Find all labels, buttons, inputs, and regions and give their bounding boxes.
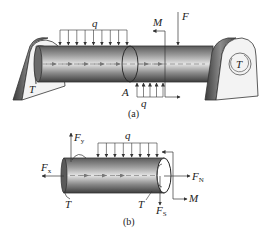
caption-b: (b) [123, 216, 135, 228]
caption-a: (a) [128, 108, 139, 120]
label-T-right-b: T [138, 198, 145, 210]
label-T-left-b: T [65, 198, 72, 210]
label-FN: FN [191, 170, 204, 184]
label-Fy: Fy [73, 131, 85, 145]
label-FS: FS [155, 204, 167, 218]
label-Fx: Fx [40, 161, 52, 175]
label-T-left: T [29, 83, 36, 95]
label-T-right: T [236, 58, 243, 70]
label-M: M [152, 16, 163, 28]
figure-a: q M F q A T T (a) [13, 10, 258, 120]
label-q-b: q [125, 129, 131, 141]
label-A: A [121, 86, 129, 98]
label-q-top: q [92, 17, 98, 29]
shaft-diagram: q M F q A T T (a) [0, 0, 269, 235]
figure-b: Fy Fx q FN M FS [40, 129, 204, 228]
shaft [34, 46, 213, 82]
label-F: F [181, 10, 189, 22]
label-M-b: M [188, 192, 199, 204]
shaft-segment [61, 154, 171, 199]
distributed-load-b [98, 143, 157, 157]
distributed-load-top [60, 30, 127, 45]
distributed-load-bottom [137, 83, 163, 97]
label-q-bottom: q [141, 97, 147, 109]
